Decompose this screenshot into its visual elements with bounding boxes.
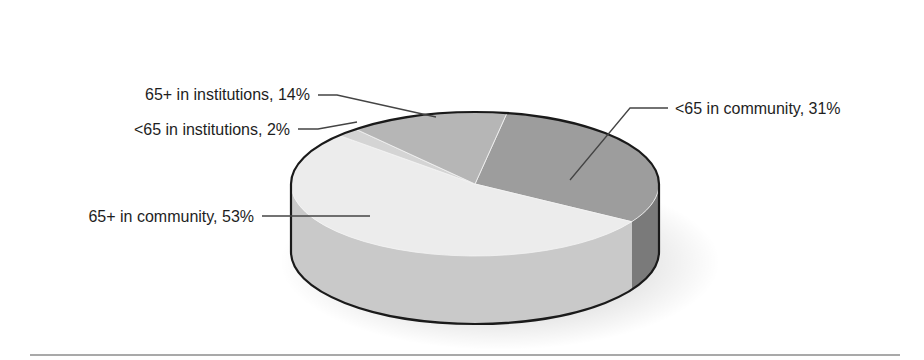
slice-label-3: 65+ in institutions, 14% [145, 86, 310, 103]
leader-line-3 [318, 95, 436, 117]
leader-line-2 [298, 122, 357, 129]
slice-label-0: <65 in community, 31% [675, 100, 841, 117]
slice-label-1: 65+ in community, 53% [88, 208, 254, 225]
slice-label-2: <65 in institutions, 2% [134, 121, 290, 138]
pie-chart: <65 in community, 31%65+ in community, 5… [0, 0, 924, 360]
